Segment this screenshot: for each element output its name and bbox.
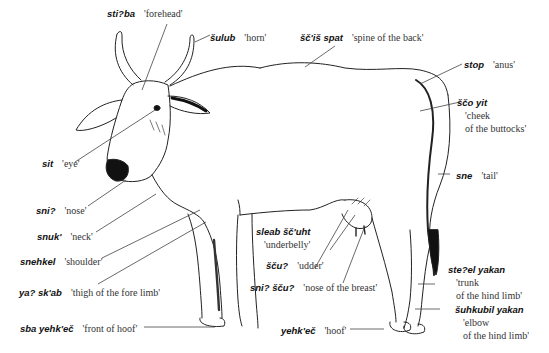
- gloss-hoof: 'hoof': [324, 325, 346, 336]
- leader-forehead: [142, 24, 167, 90]
- term-forehead: sti?ba: [107, 8, 135, 19]
- label-udder: šču?'udder': [266, 257, 324, 272]
- term-spine: šč'iš spat: [300, 32, 343, 43]
- gloss-nose: 'nose': [65, 205, 87, 216]
- term-tail: sne: [456, 170, 472, 181]
- leader-buttocks: [420, 102, 460, 111]
- label-shoulder: snehkel'shoulder': [20, 253, 102, 268]
- term-thigh-fore: ya? sk'ab: [19, 287, 62, 298]
- term-trunk-hind: ste?el yakan: [448, 263, 522, 276]
- gloss-tail: 'tail': [481, 170, 497, 181]
- udder-shape: [342, 200, 372, 229]
- left-ear: [76, 100, 122, 131]
- eye-shape: [154, 106, 160, 111]
- leader-nose: [88, 180, 126, 206]
- label-eye: sit'eye': [42, 155, 80, 170]
- term-horn: šulub: [210, 32, 235, 43]
- leader-nose-breast: [343, 226, 365, 283]
- term-front-hoof: sba yehk'eč: [20, 323, 74, 334]
- gloss-elbow-hind-line2: of the hind limb': [463, 329, 529, 342]
- leader-anus: [420, 64, 462, 84]
- back-line: [260, 63, 448, 95]
- hind-hoof: [390, 322, 411, 332]
- label-anus: stop'anus': [464, 56, 515, 71]
- label-buttocks: ščo yit 'cheek of the buttocks': [457, 94, 526, 135]
- term-buttocks: ščo yit: [457, 97, 487, 108]
- label-spine: šč'iš spat'spine of the back': [300, 29, 424, 44]
- label-elbow-hind: šuhkubil yakan 'elbow of the hind limb': [455, 303, 529, 342]
- hind-leg: [372, 218, 396, 322]
- gloss-thigh-fore: 'thigh of the fore limb': [71, 287, 160, 298]
- leader-horn: [195, 35, 210, 42]
- gloss-shoulder: 'shoulder': [64, 256, 102, 267]
- gloss-horn: 'horn': [244, 32, 266, 43]
- gloss-nose-breast: 'nose of the breast': [303, 282, 377, 293]
- gloss-spine: 'spine of the back': [352, 32, 424, 43]
- label-horn: šulub'horn': [210, 29, 266, 44]
- term-shoulder: snehkel: [20, 256, 55, 267]
- gloss-udder: 'udder': [297, 260, 323, 271]
- gloss-trunk-hind-line2: of the hind limb': [456, 289, 522, 302]
- belly-line: [240, 200, 345, 215]
- term-nose: sni?: [36, 205, 56, 216]
- gloss-anus: 'anus': [493, 59, 515, 70]
- leader-neck: [96, 194, 156, 232]
- label-tail: sne'tail': [456, 167, 498, 182]
- gloss-buttocks-line1: 'cheek: [465, 109, 526, 122]
- label-trunk-hind: ste?el yakan 'trunk of the hind limb': [448, 263, 522, 302]
- fore-hoof: [200, 318, 225, 327]
- label-underbelly: sleab šč'uht 'underbelly': [256, 225, 311, 251]
- label-forehead: sti?ba'forehead': [107, 5, 183, 20]
- term-eye: sit: [42, 158, 53, 169]
- gloss-front-hoof: 'front of hoof': [83, 323, 138, 334]
- term-neck: snuk': [37, 231, 61, 242]
- label-nose-breast: sni? šču?'nose of the breast': [250, 279, 377, 294]
- cow-anatomy-figure: sti?ba'forehead' šulub'horn' šč'iš spat'…: [0, 0, 549, 353]
- gloss-eye: 'eye': [62, 158, 79, 169]
- term-hoof: yehk'eč: [281, 325, 315, 336]
- term-nose-breast: sni? šču?: [250, 282, 294, 293]
- gloss-buttocks-line2: of the buttocks': [465, 122, 526, 135]
- label-front-hoof: sba yehk'eč'front of hoof': [20, 320, 137, 335]
- term-udder: šču?: [266, 260, 288, 271]
- label-neck: snuk''neck': [37, 228, 93, 243]
- gloss-neck: 'neck': [70, 231, 92, 242]
- label-nose: sni?'nose': [36, 202, 86, 217]
- term-anus: stop: [464, 59, 484, 70]
- muzzle: [106, 159, 128, 181]
- label-hoof: yehk'eč'hoof': [281, 322, 346, 337]
- label-thigh-fore: ya? sk'ab'thigh of the fore limb': [19, 284, 160, 299]
- leader-thigh-fore: [98, 222, 206, 284]
- left-horn: [115, 32, 141, 85]
- gloss-forehead: 'forehead': [144, 8, 183, 19]
- gloss-trunk-hind-line1: 'trunk: [456, 276, 522, 289]
- term-elbow-hind: šuhkubil yakan: [455, 303, 529, 316]
- gloss-elbow-hind-line1: 'elbow: [463, 316, 529, 329]
- leader-eye: [75, 110, 155, 162]
- term-underbelly: sleab šč'uht: [256, 225, 311, 238]
- gloss-underbelly: 'underbelly': [264, 238, 311, 251]
